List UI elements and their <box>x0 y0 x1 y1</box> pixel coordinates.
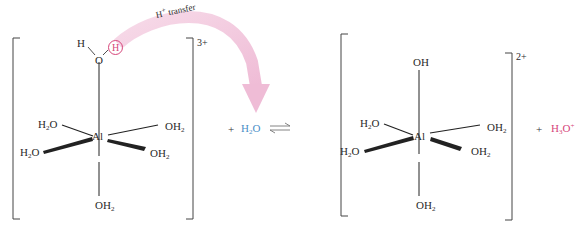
ligand-o: O <box>31 146 39 158</box>
hydronium-charge: + <box>570 122 574 130</box>
ligand-oh: OH <box>150 147 166 159</box>
reactant-ligand-upper-left: H2O <box>38 119 57 130</box>
ligand-oh: OH <box>487 121 503 133</box>
ligand-h: H <box>340 145 348 157</box>
reactant-charge: 3+ <box>197 38 208 48</box>
product-ligand-bottom: OH2 <box>416 200 435 211</box>
ligand-sub: 2 <box>503 127 507 135</box>
ligand-oh: OH <box>95 199 111 211</box>
equilibrium-arrow <box>270 123 290 133</box>
ligand-sub: 2 <box>487 151 491 159</box>
diagram-graphics <box>0 0 586 232</box>
ligand-oh: OH <box>416 199 432 211</box>
reactant-ligand-lower-right: OH2 <box>150 148 169 159</box>
ligand-o: O <box>49 118 57 130</box>
plus-sign-1: + <box>228 124 234 135</box>
product-charge: 2+ <box>516 52 527 62</box>
product-ligand-lower-left: H2O <box>340 146 359 157</box>
plus-sign-2: + <box>536 124 542 135</box>
water-h: H <box>241 122 249 134</box>
ligand-h: H <box>38 118 46 130</box>
water-reactant: H2O <box>241 123 260 134</box>
reactant-ligand-lower-left: H2O <box>20 147 39 158</box>
hydronium-product: H3O+ <box>551 123 574 134</box>
reactant-ligand-bottom: OH2 <box>95 200 114 211</box>
product-ligand-upper-left: H2O <box>360 118 379 129</box>
ligand-sub: 2 <box>166 153 170 161</box>
ligand-h: H <box>360 117 368 129</box>
hydronium-h: H <box>551 122 559 134</box>
top-ligand-o: O <box>95 55 103 66</box>
transferred-proton: H <box>108 40 123 55</box>
hydrolysis-diagram: H+ transfer H O H 3+ Al H2O OH2 H2O OH2 … <box>0 0 586 232</box>
ligand-sub: 2 <box>432 205 436 213</box>
product-ligand-top: OH <box>413 57 429 68</box>
top-ligand-h: H <box>77 38 85 49</box>
reactant-ligand-upper-right: OH2 <box>165 121 184 132</box>
ligand-oh: OH <box>471 145 487 157</box>
proton-transfer-arrow <box>118 17 270 113</box>
product-ligand-lower-right: OH2 <box>471 146 490 157</box>
ligand-h: H <box>20 146 28 158</box>
reactant-metal: Al <box>92 131 103 142</box>
product-metal: Al <box>414 131 425 142</box>
ligand-o: O <box>371 117 379 129</box>
ligand-sub: 2 <box>111 205 115 213</box>
ligand-sub: 2 <box>181 126 185 134</box>
ligand-oh: OH <box>165 120 181 132</box>
product-ligand-upper-right: OH2 <box>487 122 506 133</box>
reactant-bonds <box>43 47 158 196</box>
ligand-o: O <box>351 145 359 157</box>
water-o: O <box>252 122 260 134</box>
